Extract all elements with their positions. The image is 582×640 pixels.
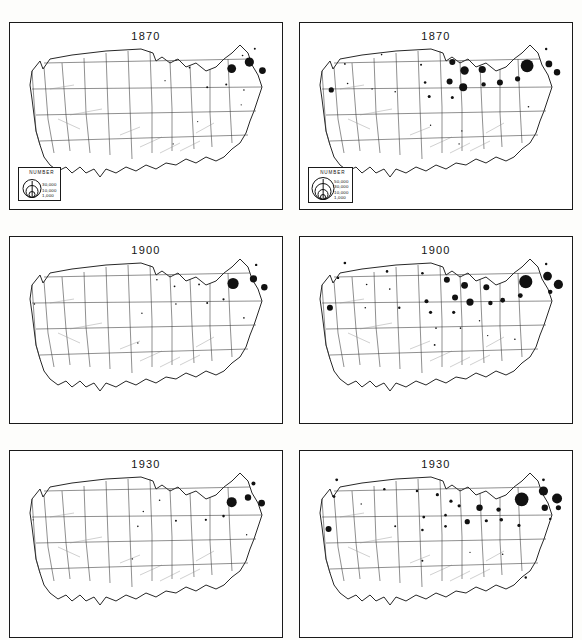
data-dot xyxy=(421,529,424,532)
map-panel-1870-right[interactable]: 1870 xyxy=(299,22,573,210)
data-dot xyxy=(514,339,516,341)
state-borders xyxy=(32,479,262,587)
data-dots xyxy=(326,478,562,578)
data-dot xyxy=(222,298,224,300)
map-legend: NUMBER 50,000 30,000 10,000 xyxy=(308,167,353,203)
data-dot xyxy=(344,262,347,265)
data-dot xyxy=(556,505,561,510)
legend-circles xyxy=(311,176,335,200)
data-dot xyxy=(444,514,447,517)
data-dot xyxy=(460,327,462,329)
data-dot xyxy=(430,125,431,126)
data-dot xyxy=(488,301,492,305)
legend-title: NUMBER xyxy=(27,170,57,175)
data-dot xyxy=(327,305,333,311)
data-dot xyxy=(497,80,503,86)
data-dot xyxy=(542,505,548,511)
data-dot xyxy=(502,553,504,555)
leader-lines xyxy=(50,513,214,581)
map-panel-1900-left[interactable]: 1900 xyxy=(9,236,283,424)
leader-lines xyxy=(340,513,504,581)
us-outline xyxy=(320,45,552,177)
data-dot xyxy=(33,519,34,520)
data-dot xyxy=(421,560,423,562)
data-dot xyxy=(222,515,225,518)
data-dot xyxy=(449,59,455,65)
map-panel-inner: 1870 xyxy=(300,23,572,209)
data-dot xyxy=(452,294,458,300)
map-panel-inner: 1900 xyxy=(10,237,282,423)
data-dot xyxy=(429,311,432,314)
data-dot xyxy=(227,278,238,289)
data-dot xyxy=(173,143,174,144)
legend-labels: 50,000 30,000 10,000 1,000 xyxy=(334,179,349,200)
state-borders xyxy=(32,265,262,373)
data-dot xyxy=(164,80,165,81)
data-dot xyxy=(389,288,391,290)
data-dot xyxy=(206,302,208,304)
data-dot xyxy=(499,518,503,522)
data-dot xyxy=(243,89,245,91)
data-dot xyxy=(428,95,431,98)
data-dot xyxy=(545,48,547,50)
data-dot xyxy=(521,59,534,72)
data-dot xyxy=(329,87,334,92)
data-dot xyxy=(481,82,485,86)
data-dots xyxy=(327,262,563,346)
data-dot xyxy=(543,272,552,281)
map-panel-1870-left[interactable]: 1870 xyxy=(9,22,283,210)
data-dots xyxy=(33,482,265,560)
data-dot xyxy=(465,519,470,524)
legend-labels: 30,000 10,000 1,000 xyxy=(42,182,57,198)
data-dot xyxy=(444,277,450,283)
data-dot xyxy=(254,48,256,50)
data-dot xyxy=(245,57,254,66)
data-dot xyxy=(458,143,459,144)
data-dot xyxy=(141,313,142,314)
data-dot xyxy=(227,497,237,507)
map-panel-inner: 1900 xyxy=(300,237,572,423)
data-dot xyxy=(479,320,480,321)
map-grid: 1870 xyxy=(0,0,582,640)
data-dot xyxy=(458,504,461,507)
us-outline xyxy=(320,473,552,605)
data-dot xyxy=(197,121,198,122)
data-dot xyxy=(434,344,436,346)
map-panel-1900-right[interactable]: 1900 xyxy=(299,236,573,424)
data-dot xyxy=(205,519,207,521)
legend-entry: 1,000 xyxy=(334,195,349,200)
data-dot xyxy=(485,519,488,522)
us-outline xyxy=(30,473,262,605)
map-panel-inner: 1870 xyxy=(10,23,282,209)
data-dot xyxy=(416,490,418,492)
data-dot xyxy=(515,493,529,507)
data-dot xyxy=(435,327,437,329)
us-outline xyxy=(30,45,262,177)
legend-body: 30,000 10,000 1,000 xyxy=(21,176,57,198)
data-dot xyxy=(242,55,244,57)
data-dot xyxy=(500,298,505,303)
data-dot xyxy=(424,299,428,303)
data-dot xyxy=(156,279,158,281)
data-dot xyxy=(261,284,267,290)
map-panel-inner: 1930 xyxy=(10,451,282,637)
data-dot xyxy=(549,518,551,520)
map-panel-1930-right[interactable]: 1930 xyxy=(299,450,573,638)
map-panel-1930-left[interactable]: 1930 xyxy=(9,450,283,638)
legend-circles xyxy=(21,176,43,198)
data-dot xyxy=(525,576,527,578)
data-dot xyxy=(483,284,489,290)
data-dot xyxy=(461,130,462,131)
data-dot xyxy=(259,67,266,74)
data-dot xyxy=(132,558,133,559)
data-dot xyxy=(487,335,488,336)
data-dot xyxy=(424,81,427,84)
data-dot xyxy=(420,64,422,66)
data-dot xyxy=(333,495,336,498)
data-dot xyxy=(241,104,242,105)
data-dot xyxy=(552,493,562,503)
data-dot xyxy=(517,524,520,527)
data-dot xyxy=(451,96,454,99)
data-dot xyxy=(174,285,176,287)
data-dot xyxy=(189,67,191,69)
